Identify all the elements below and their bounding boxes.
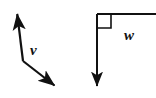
vector-v-upper-segment — [17, 14, 23, 61]
vector-diagram-svg: v w — [0, 0, 156, 98]
right-diagram-group: w — [97, 14, 156, 86]
vector-v-lower-segment — [23, 61, 55, 86]
right-angle-marker-icon — [97, 14, 111, 28]
figure-canvas: v w — [0, 0, 156, 98]
left-diagram-group: v — [17, 14, 54, 86]
vector-w-label: w — [124, 27, 135, 43]
vector-v-label: v — [30, 42, 37, 58]
